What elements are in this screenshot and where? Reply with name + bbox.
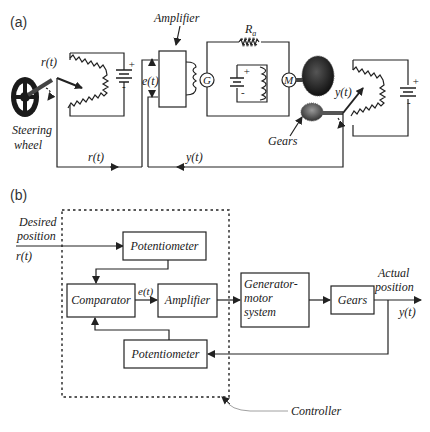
steering-wheel-icon <box>11 77 52 117</box>
input-label-1: Desired <box>18 215 58 229</box>
panel-b-label: (b) <box>10 187 27 203</box>
steering-label-2: wheel <box>14 138 43 152</box>
comparator-label: Comparator <box>71 293 131 307</box>
amplifier-label: Amplifier <box>153 11 200 25</box>
output-label-1: Actual <box>377 266 410 280</box>
error-signal-label: e(t) <box>138 285 154 298</box>
genmotor-label-1: Generator- <box>244 277 298 291</box>
output-signal-label: y(t) <box>398 305 416 319</box>
panel-a-label: (a) <box>10 14 27 30</box>
pot-bottom-label: Potentiometer <box>131 347 200 361</box>
wheel-r-label: r(t) <box>41 55 57 69</box>
amp-error-label: e(t) <box>142 74 159 88</box>
out-battery-minus: - <box>407 96 411 108</box>
rotation-arrow-icon <box>46 88 51 100</box>
field-minus: - <box>241 86 245 98</box>
large-gear-icon <box>302 56 334 96</box>
gears-block-label: Gears <box>338 293 368 307</box>
steering-label-1: Steering <box>12 123 52 137</box>
generator-label: G <box>203 74 211 86</box>
wire-r-label: r(t) <box>88 150 104 164</box>
genmotor-label-2: motor <box>244 291 273 305</box>
input-label-2: position <box>16 229 56 243</box>
input-signal-label: r(t) <box>16 249 32 263</box>
field-plus: + <box>243 65 250 77</box>
wire-y-label: y(t) <box>185 150 203 164</box>
ra-label: Ra <box>244 22 256 38</box>
amplifier-block-label: Amplifier <box>164 293 211 307</box>
wire-y <box>148 113 343 167</box>
gear-y-label: y(t) <box>334 85 352 99</box>
amp-input-wire-2 <box>148 97 158 167</box>
battery-minus: - <box>122 80 126 92</box>
gears-label: Gears <box>268 134 298 148</box>
output-label-2: position <box>374 280 414 294</box>
input-potentiometer <box>57 53 132 116</box>
amplifier-box <box>159 51 186 107</box>
pot-top-label: Potentiometer <box>130 239 199 253</box>
output-potentiometer <box>343 60 416 136</box>
motor-label: M <box>283 74 294 86</box>
controller-label: Controller <box>291 404 342 418</box>
battery-plus: + <box>128 58 135 70</box>
out-battery-plus: + <box>412 75 419 87</box>
genmotor-label-3: system <box>244 305 276 319</box>
field-coil-icon <box>260 67 266 100</box>
small-gear-icon <box>301 103 323 121</box>
